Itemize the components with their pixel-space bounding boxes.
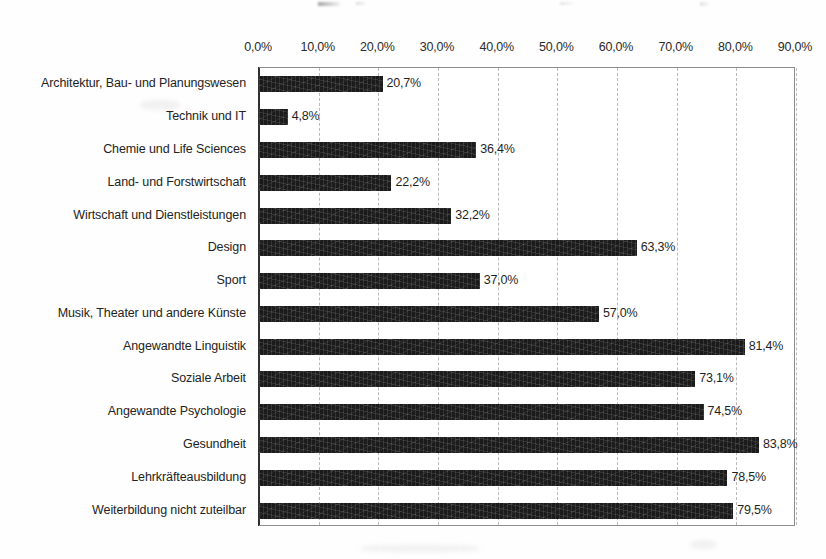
bar <box>259 175 391 191</box>
bar-row: 83,8% <box>259 437 794 453</box>
x-tick-label: 70,0% <box>658 40 692 54</box>
bar <box>259 371 695 387</box>
x-tick-label: 60,0% <box>599 40 633 54</box>
bar-value-label: 22,2% <box>391 174 429 191</box>
bar <box>259 470 727 486</box>
bar <box>259 306 599 322</box>
bar <box>259 142 476 158</box>
bars-layer: 20,7%4,8%36,4%22,2%32,2%63,3%37,0%57,0%8… <box>259 68 794 525</box>
bar-value-label: 36,4% <box>476 141 514 158</box>
bar <box>259 339 745 355</box>
bar-value-label: 63,3% <box>637 239 675 256</box>
category-label: Design <box>208 239 246 255</box>
category-label: Lehrkräfteausbildung <box>131 469 246 485</box>
bar <box>259 240 637 256</box>
bar-row: 36,4% <box>259 142 794 158</box>
scan-artifact <box>560 2 574 5</box>
gridline <box>796 68 797 525</box>
bar-row: 79,5% <box>259 503 794 519</box>
category-label: Soziale Arbeit <box>171 370 246 386</box>
bar-value-label: 73,1% <box>695 370 733 387</box>
x-tick-label: 0,0% <box>244 40 272 54</box>
category-label: Angewandte Psychologie <box>108 403 246 419</box>
bar-value-label: 81,4% <box>745 338 783 355</box>
bar-value-label: 4,8% <box>288 108 320 125</box>
category-label: Gesundheit <box>183 436 246 452</box>
bar-row: 57,0% <box>259 306 794 322</box>
bar-value-label: 20,7% <box>383 75 421 92</box>
bar <box>259 437 759 453</box>
scan-artifact <box>700 2 709 6</box>
y-axis-line <box>258 67 259 526</box>
bar-row: 4,8% <box>259 109 794 125</box>
bar-row: 81,4% <box>259 339 794 355</box>
bar <box>259 404 704 420</box>
bar-value-label: 83,8% <box>759 436 797 453</box>
bar-value-label: 37,0% <box>480 272 518 289</box>
scan-artifact <box>356 2 366 5</box>
category-label: Angewandte Linguistik <box>123 338 246 354</box>
bar-value-label: 57,0% <box>599 305 637 322</box>
bar-row: 63,3% <box>259 240 794 256</box>
bar-value-label: 74,5% <box>704 403 742 420</box>
category-label: Weiterbildung nicht zuteilbar <box>92 502 246 518</box>
x-tick-label: 10,0% <box>300 40 334 54</box>
x-tick-label: 90,0% <box>778 40 812 54</box>
category-label: Chemie und Life Sciences <box>103 141 246 157</box>
x-axis-tick-labels: 0,0%10,0%20,0%30,0%40,0%50,0%60,0%70,0%8… <box>0 40 826 58</box>
category-label: Sport <box>217 272 246 288</box>
bar-value-label: 32,2% <box>451 207 489 224</box>
bar-chart: 0,0%10,0%20,0%30,0%40,0%50,0%60,0%70,0%8… <box>0 0 826 559</box>
x-tick-label: 30,0% <box>420 40 454 54</box>
bar <box>259 273 480 289</box>
category-label: Wirtschaft und Dienstleistungen <box>73 207 246 223</box>
x-tick-label: 20,0% <box>360 40 394 54</box>
bar <box>259 109 288 125</box>
plot-area: 20,7%4,8%36,4%22,2%32,2%63,3%37,0%57,0%8… <box>258 67 795 526</box>
bar-row: 22,2% <box>259 175 794 191</box>
bar-row: 20,7% <box>259 76 794 92</box>
bar <box>259 208 451 224</box>
x-tick-label: 40,0% <box>479 40 513 54</box>
bar-value-label: 79,5% <box>733 502 771 519</box>
bar-row: 78,5% <box>259 470 794 486</box>
scan-artifact <box>360 545 480 552</box>
y-axis-category-labels: Architektur, Bau- und PlanungswesenTechn… <box>0 67 252 526</box>
bar-row: 37,0% <box>259 273 794 289</box>
category-label: Architektur, Bau- und Planungswesen <box>41 75 246 91</box>
x-tick-label: 50,0% <box>539 40 573 54</box>
category-label: Musik, Theater und andere Künste <box>58 305 246 321</box>
scan-artifact <box>318 2 340 6</box>
category-label: Land- und Forstwirtschaft <box>107 174 246 190</box>
bar-value-label: 78,5% <box>727 469 765 486</box>
bar <box>259 503 733 519</box>
bar-row: 73,1% <box>259 371 794 387</box>
bar <box>259 76 383 92</box>
bar-row: 74,5% <box>259 404 794 420</box>
scan-artifact <box>690 540 716 549</box>
bar-row: 32,2% <box>259 208 794 224</box>
category-label: Technik und IT <box>166 108 246 124</box>
x-tick-label: 80,0% <box>718 40 752 54</box>
